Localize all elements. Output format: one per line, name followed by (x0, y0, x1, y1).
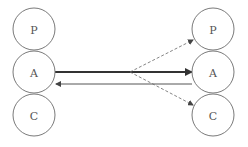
node-right-c: C (192, 94, 234, 136)
node-label: P (209, 24, 217, 37)
dashed-arrow-to-p (130, 40, 193, 72)
node-right-a: A (192, 51, 234, 93)
node-right-p: P (192, 8, 234, 50)
node-label: P (30, 24, 38, 37)
node-label: C (209, 110, 217, 123)
node-label: A (208, 67, 218, 80)
node-label: A (29, 67, 39, 80)
diagram-canvas: P A C P A C (0, 0, 248, 147)
node-label: C (30, 110, 38, 123)
node-left-c: C (13, 94, 55, 136)
dashed-arrow-to-c (130, 72, 193, 105)
node-left-a: A (13, 51, 55, 93)
node-left-p: P (13, 8, 55, 50)
